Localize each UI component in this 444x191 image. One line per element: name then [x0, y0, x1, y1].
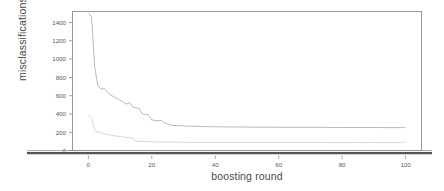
series-line-0: [88, 13, 405, 127]
x-tick-label: 0: [87, 161, 91, 168]
plot-canvas: 1400 1200 1000 800 600 400 200 0 0: [0, 0, 444, 191]
y-tick-label: 600: [56, 92, 67, 99]
y-tick-marks: [69, 23, 73, 151]
x-axis-label: boosting round: [72, 170, 422, 182]
x-tick-label: 80: [339, 161, 346, 168]
chart-screenshot: 1400 1200 1000 800 600 400 200 0 0: [0, 0, 444, 191]
x-tick-label: 100: [400, 161, 411, 168]
y-tick-label: 1200: [52, 37, 66, 44]
plot-frame: [73, 12, 422, 151]
x-tick-marks: [88, 156, 405, 160]
y-tick-labels: 1400 1200 1000 800 600 400 200 0: [52, 19, 66, 154]
y-tick-label: 800: [56, 74, 67, 81]
y-tick-label: 200: [56, 129, 67, 136]
series-line-1: [88, 115, 405, 142]
matplotlib-figure: 1400 1200 1000 800 600 400 200 0 0: [0, 0, 444, 191]
y-tick-label: 1000: [52, 55, 66, 62]
x-tick-label: 40: [212, 161, 219, 168]
x-tick-label: 60: [275, 161, 282, 168]
x-tick-label: 20: [148, 161, 155, 168]
y-axis-label: misclassifications: [16, 0, 28, 99]
x-tick-labels: 0 20 40 60 80 100: [87, 161, 412, 168]
y-tick-label: 400: [56, 110, 67, 117]
y-tick-label: 1400: [52, 19, 66, 26]
